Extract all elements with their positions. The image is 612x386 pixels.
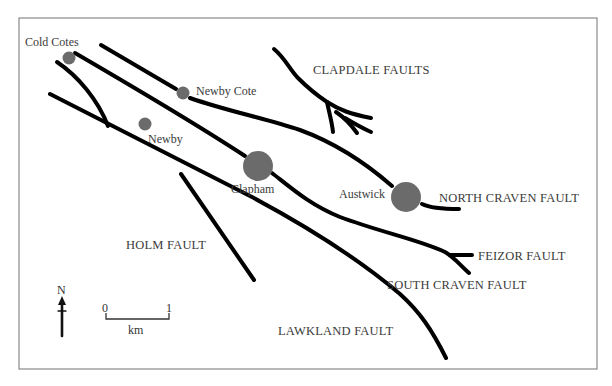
fault-map: Cold Cotes Newby Cote Newby Clapham Aust… [0,0,612,386]
town-label-newby: Newby [148,132,183,146]
town-marker-newby [139,118,152,131]
town-marker-clapham [243,151,273,181]
fault-label-north-craven: NORTH CRAVEN FAULT [439,191,579,205]
fault-label-clapdale: CLAPDALE FAULTS [313,63,430,77]
town-label-cold-cotes: Cold Cotes [25,35,79,49]
scale-unit-label: km [128,323,144,337]
town-marker-cold-cotes [63,52,76,65]
scale-end-label: 1 [166,301,172,315]
north-label: N [57,283,66,297]
town-label-clapham: Clapham [231,182,275,196]
scale-start-label: 0 [102,301,108,315]
fault-label-feizor: FEIZOR FAULT [478,249,566,263]
town-label-austwick: Austwick [339,187,385,201]
fault-label-lawkland: LAWKLAND FAULT [278,324,393,338]
fault-label-holm: HOLM FAULT [126,238,206,252]
town-marker-newby-cote [177,87,190,100]
fault-label-south-craven: SOUTH CRAVEN FAULT [387,278,527,292]
town-marker-austwick [391,182,421,212]
town-label-newby-cote: Newby Cote [196,84,256,98]
